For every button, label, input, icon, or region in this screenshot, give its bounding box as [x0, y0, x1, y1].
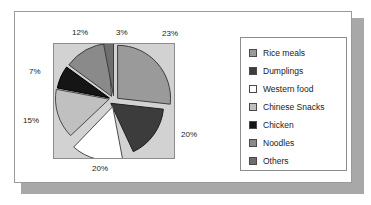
pie-chart-svg — [54, 44, 174, 158]
legend-swatch-icon-others — [249, 157, 257, 165]
legend-swatch-icon-western-food — [249, 85, 257, 93]
pie-label-western-food: 20% — [92, 164, 108, 173]
legend-item-noodles[interactable]: Noodles — [249, 134, 346, 152]
legend-item-rice-meals[interactable]: Rice meals — [249, 44, 346, 62]
chart-screenshot: 23% 3% 12% 7% 15% 20% 20% Rice meals Dum… — [0, 0, 371, 205]
pie-label-noodles: 12% — [72, 28, 88, 37]
pie-label-chicken: 7% — [29, 67, 41, 76]
chart-card: 23% 3% 12% 7% 15% 20% 20% Rice meals Dum… — [14, 11, 352, 183]
legend-label-rice-meals: Rice meals — [263, 49, 305, 58]
legend-swatch-icon-rice-meals — [249, 49, 257, 57]
legend-swatch-icon-chinese-snacks — [249, 103, 257, 111]
pie-slice-rice-meals[interactable] — [118, 45, 171, 104]
pie-plot-area — [53, 43, 175, 159]
legend-swatch-icon-dumplings — [249, 67, 257, 75]
legend-label-western-food: Western food — [263, 85, 313, 94]
legend-item-others[interactable]: Others — [249, 152, 346, 170]
legend-item-western-food[interactable]: Western food — [249, 80, 346, 98]
chart-legend: Rice meals Dumplings Western food Chines… — [240, 37, 347, 171]
pie-label-rice-meals: 23% — [162, 29, 178, 38]
legend-label-dumplings: Dumplings — [263, 67, 303, 76]
legend-item-chicken[interactable]: Chicken — [249, 116, 346, 134]
legend-label-noodles: Noodles — [263, 139, 294, 148]
legend-item-chinese-snacks[interactable]: Chinese Snacks — [249, 98, 346, 116]
pie-label-others: 3% — [116, 28, 128, 37]
legend-label-others: Others — [263, 157, 289, 166]
legend-swatch-icon-chicken — [249, 121, 257, 129]
legend-swatch-icon-noodles — [249, 139, 257, 147]
legend-label-chicken: Chicken — [263, 121, 294, 130]
pie-label-dumplings: 20% — [181, 130, 197, 139]
legend-label-chinese-snacks: Chinese Snacks — [263, 103, 324, 112]
legend-item-dumplings[interactable]: Dumplings — [249, 62, 346, 80]
pie-label-chinese-snacks: 15% — [23, 116, 39, 125]
